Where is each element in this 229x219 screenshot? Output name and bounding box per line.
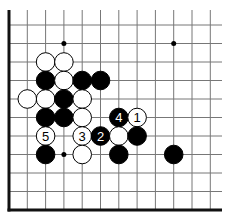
black-stone (55, 108, 74, 127)
white-stone (18, 90, 37, 109)
black-stone (110, 145, 129, 164)
black-stone (36, 71, 55, 90)
star-point (61, 152, 66, 157)
white-stone (73, 108, 92, 127)
move-number: 2 (97, 129, 104, 144)
black-stone: 2 (91, 127, 110, 146)
black-stone: 4 (110, 108, 129, 127)
white-stone (73, 145, 92, 164)
move-number: 5 (42, 129, 49, 144)
move-number: 3 (79, 129, 86, 144)
black-stone (91, 71, 110, 90)
move-number: 4 (115, 110, 122, 125)
white-stone (110, 127, 129, 146)
move-number: 1 (133, 110, 140, 125)
white-stone (55, 71, 74, 90)
white-stone: 1 (128, 108, 147, 127)
white-stone (36, 53, 55, 72)
go-board: 41532 (0, 0, 229, 219)
white-stone (36, 90, 55, 109)
black-stone (36, 145, 55, 164)
black-stone (128, 127, 147, 146)
star-point (171, 41, 176, 46)
star-point (61, 41, 66, 46)
white-stone (55, 53, 74, 72)
black-stone (164, 145, 183, 164)
black-stone (73, 71, 92, 90)
white-stone (73, 90, 92, 109)
black-stone (55, 90, 74, 109)
white-stone: 3 (73, 127, 92, 146)
white-stone: 5 (36, 127, 55, 146)
black-stone (36, 108, 55, 127)
